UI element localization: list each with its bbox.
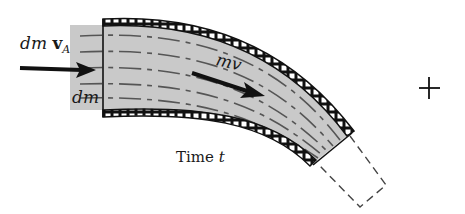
velocity-subscript: A [62,43,70,56]
time-variable: t [219,148,225,166]
time-caption: Time t [176,148,225,166]
inflow-momentum-prefix: dm [20,33,52,53]
inflow-momentum-label: dm vA [20,33,70,56]
plus-icon [419,77,440,99]
time-caption-text: Time [176,148,219,166]
inflow-mass-label: dm [72,87,99,107]
velocity-vector: v [52,33,62,53]
